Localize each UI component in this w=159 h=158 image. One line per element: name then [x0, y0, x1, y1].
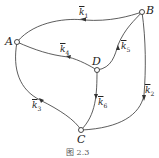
edge-label-k4: k4: [60, 45, 69, 56]
node-label-c: C: [77, 134, 85, 145]
edge-label-k6: k6: [98, 98, 107, 109]
node-label-b: B: [146, 5, 154, 16]
edge-k5: [97, 12, 142, 70]
edge-label-k5: k5: [121, 42, 130, 53]
edge-k6: [81, 70, 97, 130]
node-d: [95, 68, 100, 73]
edge-label-k3: k3: [32, 101, 41, 112]
network-diagram: A B C D k1 k2 k3 k4 k5 k6 图 2.3: [0, 0, 159, 158]
edge-k3: [16, 42, 81, 130]
edge-label-k2: k2: [145, 86, 154, 97]
arrow-k5: [116, 45, 120, 50]
node-label-d: D: [92, 56, 101, 67]
node-a: [15, 40, 20, 45]
node-label-a: A: [5, 36, 13, 47]
edge-k4: [17, 42, 97, 70]
node-c: [79, 128, 84, 133]
edge-label-k1: k1: [79, 8, 88, 19]
edge-k2: [82, 12, 145, 130]
figure-caption: 图 2.3: [66, 149, 89, 157]
node-b: [140, 10, 145, 15]
